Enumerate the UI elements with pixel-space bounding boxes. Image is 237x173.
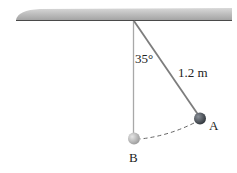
ball-a [194, 113, 206, 125]
point-b-label: B [129, 150, 138, 165]
swing-path [140, 123, 194, 139]
pendulum-diagram: 35° 1.2 m A B [0, 0, 237, 173]
point-a-label: A [209, 118, 219, 133]
length-label: 1.2 m [178, 65, 208, 80]
ball-b [128, 133, 140, 145]
ceiling [16, 8, 232, 21]
angle-label: 35° [135, 51, 153, 66]
diagram-canvas: 35° 1.2 m A B [0, 0, 237, 173]
